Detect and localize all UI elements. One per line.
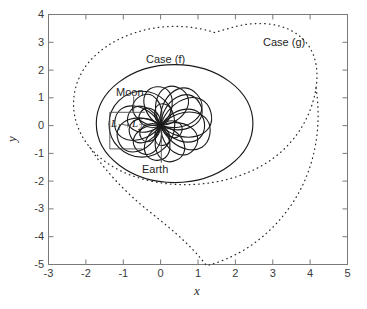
- x-tick-label: 0: [151, 268, 171, 279]
- y-tick-label: 2: [24, 65, 44, 76]
- x-tick-label: 1: [188, 268, 208, 279]
- figure-container: -3 -2 -1 0 1 2 3 4 5 4 3 2 1 0 -1 -2 -3 …: [0, 0, 367, 309]
- x-tick-label: 4: [300, 268, 320, 279]
- y-tick-label: -1: [21, 148, 44, 159]
- annotation-case-g: Case (g): [263, 37, 305, 48]
- y-tick-label: -3: [21, 203, 44, 214]
- x-tick-label: -2: [76, 268, 96, 279]
- x-tick-label: 2: [225, 268, 245, 279]
- y-axis-title: y: [4, 136, 20, 142]
- plot-canvas: [0, 0, 367, 309]
- annotation-l2: L2: [132, 117, 142, 132]
- x-axis-title: x: [194, 283, 200, 299]
- y-tick-label: 4: [24, 9, 44, 20]
- annotation-case-f: Case (f): [146, 54, 185, 65]
- x-tick-label: -1: [113, 268, 133, 279]
- y-tick-label: -2: [21, 176, 44, 187]
- y-tick-label: 1: [24, 92, 44, 103]
- y-tick-label: 0: [24, 120, 44, 131]
- annotation-l1: L1: [111, 117, 121, 132]
- x-tick-label: 3: [263, 268, 283, 279]
- y-tick-label: -4: [21, 231, 44, 242]
- annotation-l2-subscript: 2: [138, 123, 142, 132]
- y-tick-label: 3: [24, 37, 44, 48]
- annotation-l1-subscript: 1: [117, 123, 121, 132]
- y-tick-label: -5: [21, 259, 44, 270]
- x-tick-label: 5: [338, 268, 358, 279]
- annotation-earth: Earth: [142, 164, 168, 175]
- annotation-moon: Moon: [116, 87, 144, 98]
